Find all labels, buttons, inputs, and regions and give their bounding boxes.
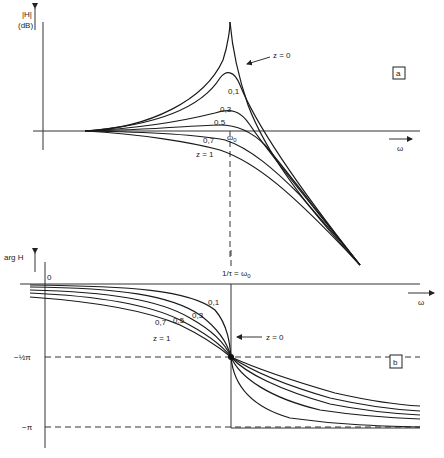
- label-z0: z = 0: [273, 51, 291, 60]
- bode-diagram: |H| (dB) ω z = 0 0,1 0,3 0,5 0,7 ω0 z = …: [0, 0, 444, 458]
- y-label-magnitude: |H|: [22, 10, 32, 19]
- tick-half-pi: −½π: [14, 353, 31, 362]
- phase-label-z0: z = 0: [266, 333, 284, 342]
- badge-b-text: b: [393, 358, 398, 367]
- x-label-omega: ω: [397, 144, 403, 153]
- phase-label-z1: z = 1: [153, 334, 171, 343]
- curve-z0-right: [230, 22, 360, 265]
- phase-label-z03: 0,3: [192, 311, 204, 320]
- phase-label-z01: 0,1: [208, 298, 220, 307]
- phase-curve-z1: [30, 297, 420, 406]
- magnitude-plot: |H| (dB) ω z = 0 0,1 0,3 0,5 0,7 ω0 z = …: [18, 8, 420, 265]
- phase-plot: arg H 0 ω −½π −π 1/τ = ω0 z = 0 0,1 0,3 …: [4, 250, 434, 448]
- curve-z1: [85, 131, 360, 265]
- curve-z01: [85, 73, 360, 265]
- curve-z05: [85, 125, 360, 265]
- crossing-point: [228, 354, 234, 360]
- label-z07: 0,7: [203, 136, 215, 145]
- badge-a-text: a: [396, 69, 401, 78]
- tick-pi: −π: [22, 423, 33, 432]
- z0-pointer-arrow: [247, 57, 270, 64]
- label-z05: 0,5: [214, 118, 226, 127]
- phase-x-label-omega: ω: [418, 298, 424, 307]
- label-1-over-tau: 1/τ = ω0: [222, 269, 251, 279]
- phase-label-z05: 0,5: [173, 316, 185, 325]
- origin-label: 0: [47, 273, 52, 282]
- label-z01: 0,1: [228, 87, 240, 96]
- label-z03: 0,3: [220, 105, 232, 114]
- y-label-db: (dB): [18, 21, 33, 30]
- label-z1: z = 1: [196, 150, 214, 159]
- label-omega0: ω0: [227, 133, 237, 143]
- phase-curve-z01: [30, 285, 420, 427]
- phase-label-z07: 0,7: [155, 318, 167, 327]
- y-label-arg: arg H: [4, 253, 24, 262]
